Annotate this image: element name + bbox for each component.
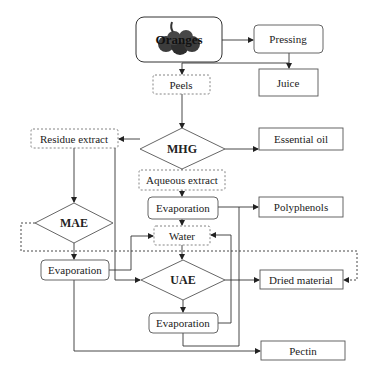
pressing-label: Pressing [269, 33, 307, 45]
node-essential-oil[interactable]: Essential oil [259, 128, 343, 150]
residue-extract-label: Residue extract [40, 133, 108, 145]
node-uae[interactable]: UAE [141, 260, 225, 300]
node-aqueous-extract[interactable]: Aqueous extract [139, 170, 225, 190]
evaporation-1-label: Evaporation [156, 202, 210, 214]
evaporation-2-label: Evaporation [48, 264, 102, 276]
node-pressing[interactable]: Pressing [254, 25, 323, 53]
flowchart-canvas: Oranges Pressing Juice Peels MHG Essenti… [0, 0, 376, 378]
dried-material-label: Dried material [269, 274, 333, 286]
edge-residue-uae [115, 148, 140, 280]
node-mhg[interactable]: MHG [140, 128, 225, 169]
water-label: Water [169, 230, 195, 242]
edge-evap2-water [109, 236, 153, 270]
oranges-label: Oranges [156, 32, 203, 47]
node-water[interactable]: Water [154, 226, 210, 245]
uae-label: UAE [170, 273, 195, 287]
polyphenols-label: Polyphenols [274, 201, 328, 213]
node-evaporation-1[interactable]: Evaporation [148, 197, 218, 219]
aqueous-extract-label: Aqueous extract [146, 174, 218, 186]
mae-label: MAE [60, 216, 88, 230]
peels-label: Peels [169, 79, 192, 91]
node-polyphenols[interactable]: Polyphenols [259, 197, 343, 217]
node-oranges[interactable]: Oranges [136, 17, 222, 62]
evaporation-3-label: Evaporation [156, 317, 210, 329]
essential-oil-label: Essential oil [274, 133, 328, 145]
juice-label: Juice [277, 77, 300, 89]
node-evaporation-2[interactable]: Evaporation [41, 260, 109, 280]
node-juice[interactable]: Juice [259, 69, 318, 96]
pectin-label: Pectin [289, 345, 317, 357]
node-mae[interactable]: MAE [35, 203, 113, 243]
node-evaporation-3[interactable]: Evaporation [149, 313, 218, 333]
node-pectin[interactable]: Pectin [261, 341, 345, 360]
node-peels[interactable]: Peels [153, 75, 210, 94]
node-residue-extract[interactable]: Residue extract [31, 129, 118, 148]
mhg-label: MHG [167, 142, 197, 156]
node-dried-material[interactable]: Dried material [260, 270, 343, 289]
